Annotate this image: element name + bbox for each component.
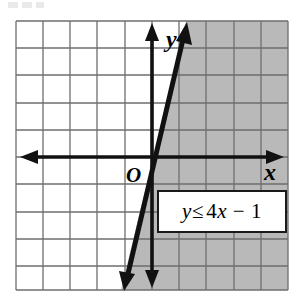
inequality-operator: − bbox=[233, 199, 245, 223]
origin-label: O bbox=[126, 163, 141, 187]
inequality-relation: ≤ bbox=[192, 199, 204, 223]
x-axis-label: x bbox=[263, 159, 276, 185]
coordinate-plane-svg: y x O bbox=[0, 0, 304, 297]
inequality-coefficient: 4 bbox=[206, 199, 217, 223]
inequality-label-box: y≤ 4x − 1 bbox=[157, 190, 287, 233]
page-crop-mark bbox=[8, 2, 44, 8]
inequality-variable: x bbox=[217, 199, 227, 223]
inequality-graph-figure: y x O y≤ 4x − 1 bbox=[0, 0, 304, 297]
inequality-constant: 1 bbox=[251, 199, 262, 223]
inequality-text: y≤ 4x − 1 bbox=[182, 199, 262, 224]
y-axis-label: y bbox=[163, 26, 177, 52]
inequality-lhs: y bbox=[182, 199, 192, 223]
